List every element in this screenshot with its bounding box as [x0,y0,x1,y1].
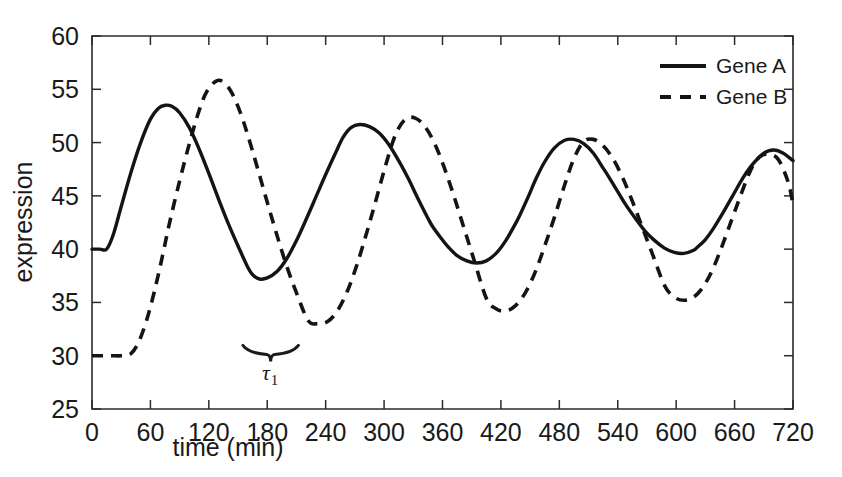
x-tick-label: 0 [85,418,99,446]
x-tick-label: 240 [305,418,347,446]
x-tick-label: 360 [422,418,464,446]
y-tick-label: 40 [51,235,79,263]
y-axis-title: expression [9,162,37,283]
tau-annotation-subscript: 1 [271,372,279,388]
expression-time-line-chart: 2530354045505560 06012018024030036042048… [0,0,842,477]
chart-figure: 2530354045505560 06012018024030036042048… [0,0,842,477]
y-tick-label: 60 [51,22,79,50]
x-tick-label: 720 [772,418,814,446]
x-tick-label: 660 [714,418,756,446]
x-tick-label: 480 [538,418,580,446]
legend-label-gene-b: Gene B [716,85,787,108]
x-axis-title: time (min) [172,433,283,461]
y-tick-label: 25 [51,395,79,423]
y-tick-label: 50 [51,129,79,157]
y-tick-label: 35 [51,288,79,316]
x-tick-label: 60 [137,418,165,446]
x-tick-label: 300 [363,418,405,446]
y-tick-label: 55 [51,75,79,103]
y-tick-label: 30 [51,342,79,370]
x-tick-label: 420 [480,418,522,446]
legend-label-gene-a: Gene A [716,54,786,77]
x-tick-label: 540 [597,418,639,446]
x-tick-label: 600 [655,418,697,446]
y-tick-label: 45 [51,182,79,210]
